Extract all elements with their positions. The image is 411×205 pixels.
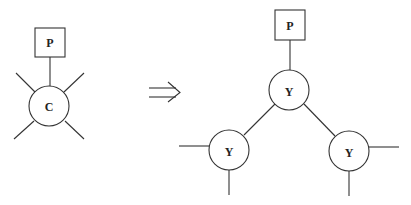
left-graph: P C [14, 28, 84, 139]
right-left-y-label: Y [225, 145, 234, 159]
left-c-label: C [45, 100, 54, 114]
left-spoke-ul [16, 73, 35, 92]
left-spoke-ur [64, 73, 84, 92]
left-spoke-lr [65, 121, 84, 139]
right-right-y-label: Y [345, 146, 354, 160]
edge-top-left [244, 104, 275, 135]
left-spoke-ll [14, 121, 34, 139]
right-graph: P Y Y Y [179, 10, 399, 196]
right-top-y-label: Y [285, 85, 294, 99]
implies-arrow-icon [149, 82, 180, 102]
right-p-label: P [286, 19, 293, 33]
left-p-label: P [46, 36, 53, 50]
diagram-canvas: P C P Y Y Y [0, 0, 411, 205]
edge-top-right [304, 104, 335, 136]
